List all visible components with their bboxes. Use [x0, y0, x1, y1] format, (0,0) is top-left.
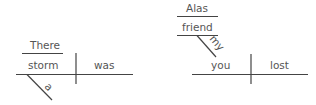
verb-word: lost	[270, 59, 289, 71]
diagram-right: Alas friend my you lost	[177, 2, 308, 84]
address-word: friend	[182, 21, 213, 33]
subject-word: you	[211, 59, 230, 71]
verb-word: was	[94, 59, 115, 71]
modifier-word: a	[43, 80, 56, 93]
interjection-word: Alas	[186, 2, 208, 14]
diagram-left: There storm was a	[16, 39, 133, 100]
sentence-diagrams: There storm was a Alas friend my you los…	[0, 0, 316, 105]
expletive-word: There	[29, 39, 60, 51]
subject-word: storm	[28, 59, 58, 71]
